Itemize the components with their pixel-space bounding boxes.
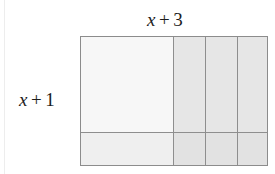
left-dimension-label: x+1 (19, 90, 55, 109)
cell-x-column-2 (205, 37, 237, 132)
top-label-operator: + (156, 9, 173, 30)
cell-x-squared (81, 37, 173, 132)
cell-unit-2 (205, 132, 237, 165)
area-model-rectangle (80, 36, 268, 166)
cell-x-column-3 (237, 37, 267, 132)
top-label-constant: 3 (173, 9, 183, 30)
cell-x-row (81, 132, 173, 165)
horizontal-divider-1 (81, 132, 267, 133)
top-label-variable: x (147, 9, 156, 30)
left-label-variable: x (19, 89, 28, 110)
vertical-divider-2 (205, 37, 206, 165)
top-dimension-label: x+3 (147, 10, 183, 29)
cell-x-column-1 (173, 37, 205, 132)
vertical-divider-1 (173, 37, 174, 165)
cell-unit-1 (173, 132, 205, 165)
left-label-operator: + (28, 89, 45, 110)
left-label-constant: 1 (45, 89, 55, 110)
cell-unit-3 (237, 132, 267, 165)
vertical-divider-3 (237, 37, 238, 165)
scan-artifact-line (4, 0, 5, 174)
area-model-figure: x+3 x+1 (0, 0, 275, 174)
